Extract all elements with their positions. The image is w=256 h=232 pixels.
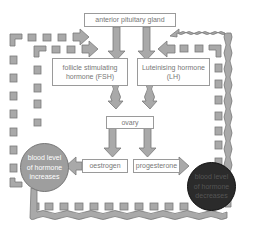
node-label: of hormone [27, 163, 62, 173]
node-ovary: ovary [106, 116, 154, 129]
node-label: follicle stimulating [63, 63, 118, 72]
node-label: blood level [28, 153, 61, 163]
arrow-lh-ovary [142, 85, 157, 109]
node-label: decreases [195, 191, 227, 201]
arrow-ovary-oestrogen [104, 128, 121, 157]
node-label: ovary [121, 118, 138, 127]
node-anterior-pituitary-gland: anterior pituitary gland [84, 13, 176, 27]
node-label: anterior pituitary gland [95, 15, 164, 24]
node-label: oestrogen [89, 161, 120, 170]
node-oestrogen: oestrogen [82, 159, 128, 173]
node-hormone-increases: blood level of hormone increases [20, 143, 69, 192]
node-label: progesterone [136, 161, 177, 170]
node-progesterone: progesterone [133, 159, 180, 173]
node-label: hormone (FSH) [66, 72, 114, 81]
node-label: of hormone [194, 182, 229, 192]
arrow-ovary-progesterone [139, 128, 156, 157]
node-lh: Luteinising hormone (LH) [137, 58, 210, 86]
node-hormone-decreases: blood level of hormone decreases [187, 162, 236, 211]
node-label: (LH) [167, 72, 181, 81]
arrow-fsh-ovary [108, 85, 123, 109]
node-label: increases [30, 172, 60, 182]
node-label: Luteinising hormone [142, 63, 205, 72]
node-label: blood level [195, 172, 228, 182]
node-fsh: follicle stimulating hormone (FSH) [52, 58, 128, 86]
arrow-pituitary-fsh [108, 27, 125, 60]
arrow-pituitary-lh [138, 27, 155, 60]
